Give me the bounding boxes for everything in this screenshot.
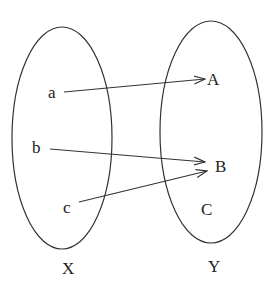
- arrow-a-to-A: [64, 79, 205, 92]
- element-B: B: [215, 157, 226, 176]
- set-y-label: Y: [208, 257, 220, 276]
- element-A: A: [207, 70, 220, 89]
- set-x-label: X: [62, 259, 74, 278]
- element-C: C: [201, 200, 212, 219]
- element-a: a: [48, 83, 56, 102]
- arrow-c-to-B: [79, 171, 207, 202]
- element-b: b: [32, 138, 41, 157]
- element-c: c: [63, 198, 71, 217]
- set-x-ellipse: [12, 27, 112, 249]
- mapping-diagram: a b c A B C X Y: [0, 0, 276, 296]
- arrow-b-to-B: [50, 149, 205, 162]
